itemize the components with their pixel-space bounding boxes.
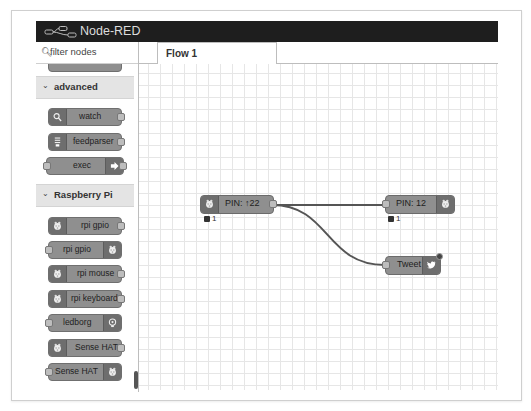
node-palette: 🔍︎ filter nodes ⌄ advanced watch feedpar… [36,42,139,392]
workspace-tabbar: Flow 1 [139,42,498,64]
node-label: Sense HAT [75,342,118,352]
palette-node-sense-hat-out[interactable]: Sense HAT [48,363,122,381]
palette-node-ledborg[interactable]: ledborg [48,314,122,332]
filter-nodes-input[interactable]: 🔍︎ filter nodes [36,42,139,64]
raspberry-icon [49,340,67,356]
input-port [45,246,53,254]
category-raspberry-pi[interactable]: ⌄ Raspberry Pi [36,184,134,207]
node-label: feedparser [73,136,114,146]
chevron-down-icon: ⌄ [42,81,49,90]
chevron-down-icon: ⌄ [42,189,49,198]
feed-icon [49,134,67,150]
palette-node-sense-hat-in[interactable]: Sense HAT [48,339,122,357]
category-advanced[interactable]: ⌄ advanced [36,76,134,99]
tab-label: Flow 1 [166,48,197,59]
output-port [117,138,125,146]
tab-flow-1[interactable]: Flow 1 [157,42,277,65]
flow-canvas[interactable] [139,64,498,390]
node-label: rpi gpio [63,244,91,254]
node-label: rpi gpio [81,220,109,230]
palette-node-rpi-mouse[interactable]: rpi mouse [48,265,122,283]
palette-node-rpi-gpio-out[interactable]: rpi gpio [48,241,122,259]
filter-placeholder: filter nodes [50,46,96,57]
output-port [117,344,125,352]
input-port[interactable] [382,261,390,269]
bulb-icon [103,315,121,331]
output-port [117,222,125,230]
raspberry-icon [49,291,67,307]
input-port [43,162,51,170]
input-port [45,368,53,376]
palette-node-feedparser[interactable]: feedparser [48,133,122,151]
output-port [117,113,125,121]
palette-node-exec[interactable]: exec [46,157,124,175]
node-changed-indicator [436,253,443,260]
palette-scrollbar[interactable] [134,371,138,389]
app-header: Node-RED [36,21,498,42]
node-status-pin22: 1 [204,214,216,223]
node-label: rpi keyboard [71,293,118,303]
node-label: Sense HAT [55,366,98,376]
output-port[interactable] [269,200,277,208]
output-port [117,295,125,303]
flow-node-pin12[interactable]: PIN: 12 [385,195,455,214]
output-port [119,162,127,170]
node-status-pin12: 1 [388,214,400,223]
raspberry-icon [103,242,121,258]
palette-node-watch[interactable]: watch [48,108,122,126]
flow-node-tweet[interactable]: Tweet [385,256,441,275]
node-label: PIN: ↑22 [225,198,260,208]
node-label: Tweet [397,259,421,269]
node-label: exec [73,160,91,170]
output-port [117,270,125,278]
status-dot-icon [204,216,210,222]
palette-node-rpi-gpio-in[interactable]: rpi gpio [48,217,122,235]
raspberry-icon [436,196,454,213]
raspberry-icon [49,266,67,282]
raspberry-icon [201,196,219,213]
node-red-logo-icon [44,26,78,38]
input-port[interactable] [382,200,390,208]
input-port [45,319,53,327]
app-title: Node-RED [80,24,140,38]
node-label: watch [79,111,101,121]
search-icon [49,109,67,125]
raspberry-icon [49,218,67,234]
raspberry-icon [103,364,121,380]
node-label: PIN: 12 [396,198,426,208]
palette-node-rpi-keyboard[interactable]: rpi keyboard [48,290,122,308]
node-label: ledborg [63,317,91,327]
category-label: advanced [54,81,98,92]
node-label: rpi mouse [77,268,114,278]
category-label: Raspberry Pi [54,189,113,200]
status-dot-icon [388,216,394,222]
flow-node-pin22[interactable]: PIN: ↑22 [200,195,274,214]
